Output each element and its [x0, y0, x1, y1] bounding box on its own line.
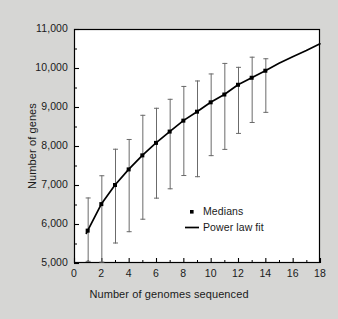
x-tick-label: 4 [117, 267, 141, 279]
legend-glyphs [185, 210, 199, 228]
x-tick-label: 6 [144, 267, 168, 279]
x-tick-label: 8 [171, 267, 195, 279]
x-tick-label: 2 [89, 267, 113, 279]
x-tick-label: 12 [226, 267, 250, 279]
y-tick-label: 11,000 [20, 22, 68, 34]
x-tick-label: 16 [281, 267, 305, 279]
x-tick-label: 10 [199, 267, 223, 279]
x-axis-title: Number of genomes sequenced [0, 288, 338, 300]
y-tick-label: 5,000 [20, 256, 68, 268]
y-axis-title: Number of genes [26, 66, 38, 226]
legend-label-medians: Medians [203, 205, 243, 217]
legend-label-power-law-fit: Power law fit [203, 221, 264, 233]
x-tick-label: 18 [308, 267, 332, 279]
x-tick-label: 0 [62, 267, 86, 279]
figure-container: 5,0006,0007,0008,0009,00010,00011,000 02… [0, 0, 338, 319]
x-tick-label: 14 [253, 267, 277, 279]
